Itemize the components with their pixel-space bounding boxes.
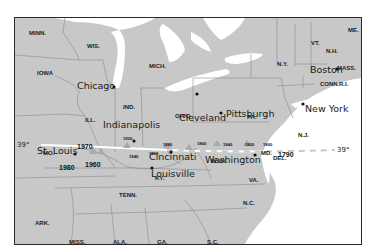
state-label-miss: MISS. (69, 239, 86, 244)
state-label-ala: ALA. (113, 239, 127, 244)
city-dot-cleveland (195, 92, 198, 95)
state-label-va: VA. (249, 177, 259, 183)
parallel-label-east: 39° (337, 146, 349, 154)
city-label-washington: Washington (205, 154, 261, 165)
city-label-chicago: Chicago (77, 80, 115, 91)
city-label-indianapolis: Indianapolis (103, 119, 160, 130)
year-label-1860: 1860 (197, 141, 207, 146)
year-label-1820: 1820 (245, 142, 255, 147)
state-label-ind: IND. (123, 104, 135, 110)
state-label-nj: N.J. (298, 132, 309, 138)
map-canvas: 39° 39° MINN. WIS. MICH. IOWA ILL. IND. … (15, 18, 361, 244)
state-label-nc: N.C. (243, 200, 255, 206)
state-label-minn: MINN. (29, 30, 46, 36)
state-label-sc: S.C. (207, 239, 219, 244)
state-label-ga: GA. (157, 239, 168, 244)
year-label-1980: 1980 (59, 164, 75, 171)
city-label-louisville: Louisville (151, 168, 195, 179)
year-label-1940: 1940 (129, 154, 139, 159)
state-label-wis: WIS. (87, 43, 100, 49)
year-label-1840: 1840 (223, 142, 233, 147)
year-label-1800: 1800 (263, 142, 273, 147)
state-label-conn: CONN. (320, 81, 340, 87)
year-label-1900: 1900 (149, 151, 159, 156)
map-frame: 39° 39° MINN. WIS. MICH. IOWA ILL. IND. … (14, 17, 362, 245)
state-label-nh: N.H. (326, 48, 338, 54)
year-label-1790: 1790 (278, 151, 294, 158)
city-label-boston: Boston (310, 64, 343, 75)
year-label-1880: 1880 (163, 142, 173, 147)
city-label-pittsburgh: Pittsburgh (226, 108, 274, 119)
state-label-iowa: IOWA (37, 70, 54, 76)
state-label-tenn: TENN. (119, 192, 137, 198)
parallel-label-west: 39° (17, 141, 29, 149)
year-label-1960: 1960 (85, 161, 101, 168)
state-label-mich: MICH. (149, 63, 166, 69)
state-label-ark: ARK. (35, 220, 50, 226)
city-label-new-york: New York (305, 103, 349, 114)
city-dot-indianapolis (132, 139, 135, 142)
city-label-st-louis: St. Louis (37, 145, 77, 156)
state-label-ri: R.I. (339, 81, 349, 87)
state-label-me: ME. (348, 27, 359, 33)
year-label-1970: 1970 (77, 143, 93, 150)
state-label-md: MD. (261, 150, 272, 156)
year-label-1920: 1920 (123, 136, 133, 141)
state-label-ny: N.Y. (277, 61, 288, 67)
state-label-vt: VT. (311, 40, 320, 46)
city-label-cleveland: Cleveland (179, 112, 226, 123)
state-label-ill: ILL. (85, 117, 96, 123)
